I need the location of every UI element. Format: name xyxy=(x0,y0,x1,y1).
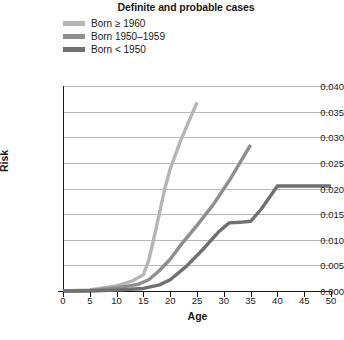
y-tick-label: 0.035 xyxy=(292,106,344,117)
y-tick-label: 0.015 xyxy=(292,209,344,220)
x-tick-label: 25 xyxy=(192,295,203,306)
x-tick-label: 40 xyxy=(272,295,283,306)
chart-title: Definite and probable cases xyxy=(0,1,344,13)
x-tick-label: 0 xyxy=(60,295,65,306)
y-tick-label: 0.030 xyxy=(292,132,344,143)
x-tick-label: 35 xyxy=(245,295,256,306)
legend-item-label: Born < 1950 xyxy=(91,43,146,56)
legend-item: Born < 1950 xyxy=(63,43,165,56)
x-tick-label: 15 xyxy=(138,295,149,306)
x-tick-label: 50 xyxy=(326,295,337,306)
y-tick-label: 0.005 xyxy=(292,260,344,271)
x-tick-label: 45 xyxy=(299,295,310,306)
series-line xyxy=(63,102,197,291)
y-tick-label: 0.020 xyxy=(292,183,344,194)
series-line xyxy=(63,186,331,291)
legend-item: Born ≥ 1960 xyxy=(63,17,165,30)
x-axis-label: Age xyxy=(63,310,332,322)
legend-swatch-icon xyxy=(63,47,85,52)
legend-swatch-icon xyxy=(63,21,85,26)
y-tick-label: 0.025 xyxy=(292,157,344,168)
x-tick-label: 30 xyxy=(219,295,230,306)
x-tick-label: 10 xyxy=(111,295,122,306)
legend-item-label: Born 1950–1959 xyxy=(91,30,165,43)
legend-item: Born 1950–1959 xyxy=(63,30,165,43)
y-tick-label: 0.010 xyxy=(292,234,344,245)
series-container xyxy=(63,86,331,292)
x-tick-label: 5 xyxy=(87,295,92,306)
y-tick-label: 0.040 xyxy=(292,81,344,92)
chart-legend: Born ≥ 1960Born 1950–1959Born < 1950 xyxy=(63,17,165,56)
chart-figure: Definite and probable cases Born ≥ 1960B… xyxy=(0,0,344,340)
legend-swatch-icon xyxy=(63,34,85,39)
y-axis-label: Risk xyxy=(0,150,10,172)
x-tick-label: 20 xyxy=(165,295,176,306)
legend-item-label: Born ≥ 1960 xyxy=(91,17,145,30)
